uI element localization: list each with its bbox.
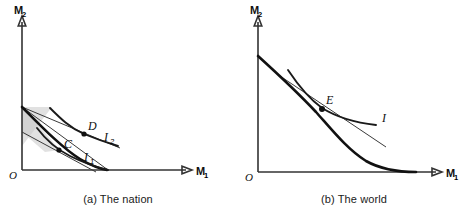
point-C-marker [56, 147, 61, 152]
panel-b-caption: (b) The world [236, 193, 472, 205]
y-axis-subscript-b: 2 [258, 10, 262, 19]
point-D-marker [81, 131, 86, 136]
x-axis-subscript-b: 1 [454, 173, 458, 182]
indifference-curve-2-subscript: 2 [109, 137, 115, 146]
point-C-label: C [64, 137, 73, 151]
y-axis-subscript-a: 2 [22, 10, 26, 19]
indifference-curve-1-subscript: 1 [90, 157, 94, 166]
origin-label-b: O [245, 171, 253, 183]
panel-a-plot: C D I 2 I 1 M 2 M 1 O [0, 0, 236, 213]
tangent-line-through-E [280, 76, 386, 147]
origin-label-a: O [9, 169, 17, 181]
point-D-label: D [87, 119, 97, 133]
point-E-marker [319, 106, 325, 112]
panel-a-caption: (a) The nation [0, 193, 236, 205]
economics-figure: C D I 2 I 1 M 2 M 1 O (a) The nation [0, 0, 472, 213]
indifference-curve-b-label: I [381, 111, 387, 125]
x-axis-subscript-a: 1 [204, 171, 208, 180]
panel-b-plot: E I M 2 M 1 O [236, 0, 472, 213]
panel-a-the-nation: C D I 2 I 1 M 2 M 1 O (a) The nation [0, 0, 236, 213]
panel-b-the-world: E I M 2 M 1 O (b) The world [236, 0, 472, 213]
point-E-label: E [325, 93, 334, 107]
indifference-curve-1-label: I [83, 150, 89, 164]
